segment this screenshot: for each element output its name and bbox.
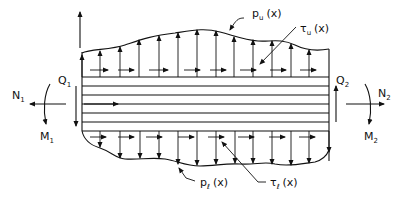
label-p-upper: pu(x) [252, 7, 282, 22]
layered-beam-free-body-diagram: pu(x) τu(x) pℓ(x) τℓ(x) Q1 Q2 N1 N2 M1 M… [0, 0, 401, 208]
lower-pressure-curve [82, 131, 329, 166]
beam-body [82, 49, 329, 161]
upper-pressure-curve [82, 30, 329, 53]
label-tau-lower: τℓ(x) [270, 176, 298, 191]
label-tau-upper: τu(x) [300, 22, 329, 37]
label-n2: N2 [378, 87, 391, 102]
tau-lower-leader [222, 142, 266, 182]
lower-pressure-arrows [100, 131, 329, 165]
label-q2: Q2 [336, 74, 349, 89]
p-lower-leader [179, 168, 195, 181]
label-q1: Q1 [58, 74, 71, 89]
label-m1: M1 [40, 130, 54, 145]
label-n1: N1 [12, 89, 25, 104]
label-p-lower: pℓ(x) [200, 176, 228, 191]
label-m2: M2 [364, 130, 378, 145]
p-upper-leader [230, 18, 244, 30]
